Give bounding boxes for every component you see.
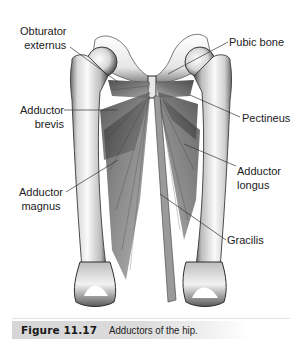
caption-separator: [12, 318, 290, 319]
label-adductor-brevis: Adductor brevis: [20, 103, 64, 131]
label-adductor-longus: Adductor longus: [237, 164, 281, 192]
label-gracilis: Gracilis: [227, 233, 264, 247]
label-adductor-magnus: Adductor magnus: [19, 185, 63, 213]
label-pubic-bone: Pubic bone: [229, 35, 284, 49]
anatomy-figure: Obturator externus Pubic bone Adductor b…: [0, 0, 302, 357]
label-obturator-externus: Obturator externus: [20, 24, 66, 52]
figure-number: Figure 11.17: [21, 324, 97, 336]
label-pectineus: Pectineus: [242, 111, 290, 125]
figure-caption-text: Adductors of the hip.: [109, 324, 198, 336]
figure-caption: Figure 11.17 Adductors of the hip.: [12, 321, 248, 339]
